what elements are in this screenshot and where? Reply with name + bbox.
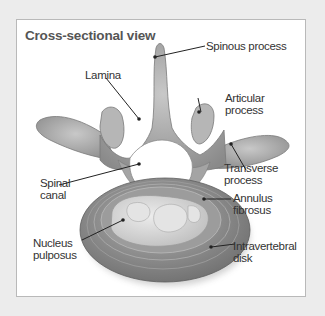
label-transverse-process-line2: process (224, 174, 262, 186)
label-spinal-canal-line1: Spinal (40, 177, 70, 189)
label-spinal-canal-line2: canal (40, 189, 66, 201)
label-annulus-fibrosus-line2: fibrosus (233, 204, 271, 216)
label-spinous-process: Spinous process (206, 40, 287, 52)
label-intravertebral-disk-line1: Intravertebral (233, 240, 297, 252)
label-articular-process-line1: Articular (225, 92, 264, 104)
label-articular-process-line2: process (225, 104, 263, 116)
label-lamina: Lamina (85, 69, 121, 81)
articular-process-right (191, 104, 214, 144)
nucleus-lobe (127, 202, 150, 221)
label-nucleus-pulposus-line1: Nucleus (33, 237, 72, 249)
nucleus-lobe (154, 204, 187, 232)
label-nucleus-pulposus-line2: pulposus (33, 249, 77, 261)
label-intravertebral-disk-line2: disk (233, 252, 252, 264)
diagram-title: Cross-sectional view (25, 28, 155, 43)
label-annulus-fibrosus-line1: Annulus (233, 192, 272, 204)
label-transverse-process-line1: Transverse (224, 162, 278, 174)
